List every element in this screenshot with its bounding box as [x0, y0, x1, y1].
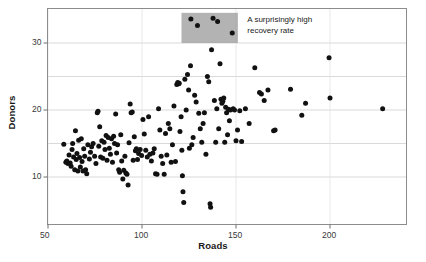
y-axis-tick-label: 10 [26, 171, 42, 181]
data-point [84, 171, 89, 176]
data-point [227, 118, 232, 123]
data-point [124, 172, 129, 177]
data-point [102, 140, 107, 145]
data-point [88, 150, 93, 155]
data-point [213, 140, 218, 145]
data-point [195, 23, 200, 28]
data-point [209, 47, 214, 52]
data-point [162, 172, 167, 177]
data-point [143, 148, 148, 153]
data-point [132, 134, 137, 139]
data-point [188, 63, 193, 68]
y-axis-tick-label: 20 [26, 104, 42, 114]
data-point [234, 138, 239, 143]
data-point [157, 128, 162, 133]
data-point [214, 106, 219, 111]
data-point [203, 152, 208, 157]
data-point [215, 19, 220, 24]
data-point [122, 154, 127, 159]
data-point [140, 117, 145, 122]
data-point [126, 183, 131, 188]
data-point [146, 114, 151, 119]
data-point [152, 146, 157, 151]
data-point [198, 126, 203, 131]
data-point [380, 106, 385, 111]
data-point [97, 124, 102, 129]
data-point [73, 128, 78, 133]
data-point [208, 205, 213, 210]
data-point [96, 144, 101, 149]
data-point [194, 99, 199, 104]
data-point [221, 95, 226, 100]
x-axis-label: Roads [0, 240, 426, 251]
data-point [239, 139, 244, 144]
data-point [167, 126, 172, 131]
data-point [149, 158, 154, 163]
data-point [159, 154, 164, 159]
data-point [202, 110, 207, 115]
data-point [155, 172, 160, 177]
data-point [222, 140, 227, 145]
data-point [82, 154, 87, 159]
annotation-line-1: A surprisingly high [247, 14, 312, 26]
data-point [92, 154, 97, 159]
data-point [218, 61, 223, 66]
data-point [93, 161, 98, 166]
data-point [139, 153, 144, 158]
data-point [205, 74, 210, 79]
data-point [156, 106, 161, 111]
data-point [108, 152, 113, 157]
data-point [232, 108, 237, 113]
data-point [142, 132, 147, 137]
data-point [138, 147, 143, 152]
data-point [189, 142, 194, 147]
data-point [303, 101, 308, 106]
data-point [91, 141, 96, 146]
y-axis-label-container: Donors [4, 0, 20, 225]
data-point [252, 65, 257, 70]
data-point [163, 131, 168, 136]
data-point [179, 114, 184, 119]
data-point [105, 158, 110, 163]
data-point [67, 152, 72, 157]
x-axis-tick-label: 200 [322, 230, 336, 240]
data-point [115, 142, 120, 147]
data-point [191, 135, 196, 140]
data-point [96, 109, 101, 114]
data-point [192, 93, 197, 98]
x-axis-tick-label: 150 [228, 230, 242, 240]
data-point [235, 128, 240, 133]
plot-canvas [0, 0, 426, 262]
x-axis-tick-label: 100 [134, 230, 148, 240]
data-point [181, 200, 186, 205]
data-point [131, 158, 136, 163]
annotation-line-2: recovery rate [247, 25, 294, 37]
data-point [259, 91, 264, 96]
data-point [113, 112, 118, 117]
data-point [327, 55, 332, 60]
data-point [118, 132, 123, 137]
data-point [247, 121, 252, 126]
data-point [212, 98, 217, 103]
data-point [177, 81, 182, 86]
data-point [114, 150, 119, 155]
data-point [70, 147, 75, 152]
data-point [107, 146, 112, 151]
data-point [127, 140, 132, 145]
data-point [196, 111, 201, 116]
data-point [265, 87, 270, 92]
data-point [80, 159, 85, 164]
data-point [160, 161, 165, 166]
data-point [169, 160, 174, 165]
data-point [328, 95, 333, 100]
data-point [243, 106, 248, 111]
data-point [299, 113, 304, 118]
data-point [182, 77, 187, 82]
data-point [225, 132, 230, 137]
data-point [102, 147, 107, 152]
data-point [119, 158, 124, 163]
data-point [199, 140, 204, 145]
data-point [262, 98, 267, 103]
data-point [216, 126, 221, 131]
y-axis-label: Donors [7, 96, 18, 130]
